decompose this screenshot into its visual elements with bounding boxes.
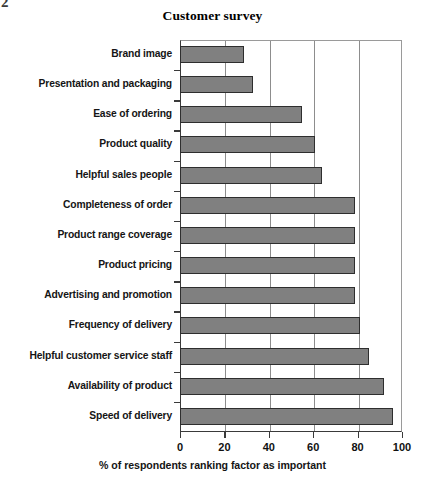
y-axis-tick <box>174 402 180 403</box>
bar-row <box>180 251 402 281</box>
x-axis-tick <box>180 432 181 438</box>
y-axis-tick <box>174 281 180 282</box>
bar <box>180 317 360 334</box>
y-axis-tick <box>174 372 180 373</box>
y-axis-tick <box>174 130 180 131</box>
bar-row <box>180 191 402 221</box>
bar <box>180 167 322 184</box>
category-label: Product pricing <box>0 259 172 270</box>
category-label: Helpful sales people <box>0 169 172 180</box>
y-axis-tick <box>174 100 180 101</box>
bar <box>180 227 355 244</box>
bar <box>180 257 355 274</box>
x-axis-tick <box>269 432 270 438</box>
customer-survey-bar-chart: Customer survey Brand imagePresentation … <box>0 0 425 484</box>
x-axis-tick-label: 60 <box>293 441 333 453</box>
y-axis-tick <box>174 251 180 252</box>
y-axis-tick <box>174 342 180 343</box>
category-label: Presentation and packaging <box>0 78 172 89</box>
category-label: Availability of product <box>0 380 172 391</box>
x-axis-tick-label: 0 <box>160 441 200 453</box>
x-axis-tick <box>224 432 225 438</box>
bar-row <box>180 130 402 160</box>
bar-row <box>180 221 402 251</box>
category-label: Brand image <box>0 48 172 59</box>
bar-row <box>180 161 402 191</box>
category-labels: Brand imagePresentation and packagingEas… <box>0 40 178 432</box>
y-axis-tick <box>174 311 180 312</box>
bar-row <box>180 70 402 100</box>
chart-title: Customer survey <box>0 8 425 24</box>
y-axis-tick <box>174 221 180 222</box>
y-axis-tick <box>174 70 180 71</box>
y-axis-tick <box>174 161 180 162</box>
bar <box>180 378 384 395</box>
x-axis-tick-label: 80 <box>338 441 378 453</box>
bar <box>180 136 315 153</box>
category-label: Frequency of delivery <box>0 319 172 330</box>
bar <box>180 287 355 304</box>
x-axis-tick <box>402 432 403 438</box>
bar-row <box>180 372 402 402</box>
x-axis-tick <box>313 432 314 438</box>
bar-row <box>180 100 402 130</box>
bar <box>180 408 393 425</box>
category-label: Completeness of order <box>0 199 172 210</box>
bars-layer <box>180 40 402 432</box>
x-axis-title: % of respondents ranking factor as impor… <box>0 459 425 471</box>
category-label: Product quality <box>0 138 172 149</box>
category-label: Speed of delivery <box>0 410 172 421</box>
category-label: Ease of ordering <box>0 108 172 119</box>
bar-row <box>180 342 402 372</box>
bar <box>180 106 302 123</box>
bar <box>180 348 369 365</box>
bar <box>180 197 355 214</box>
category-label: Product range coverage <box>0 229 172 240</box>
x-axis-tick-label: 40 <box>249 441 289 453</box>
y-axis-tick <box>174 191 180 192</box>
category-label: Helpful customer service staff <box>0 350 172 361</box>
bar-row <box>180 40 402 70</box>
category-label: Advertising and promotion <box>0 289 172 300</box>
bar-row <box>180 402 402 432</box>
x-axis-tick <box>358 432 359 438</box>
bar-row <box>180 281 402 311</box>
bar <box>180 76 253 93</box>
bar <box>180 46 244 63</box>
x-axis-tick-label: 20 <box>204 441 244 453</box>
bar-row <box>180 311 402 341</box>
x-axis-tick-label: 100 <box>382 441 422 453</box>
